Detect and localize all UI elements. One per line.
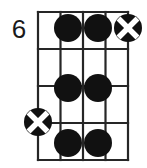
cross-marker-top-right (114, 14, 142, 42)
chord-grid-svg (0, 0, 147, 168)
dot-fret4-string3 (84, 129, 112, 157)
dot-fret1-string2 (54, 14, 82, 42)
dot-fret1-string3 (84, 14, 112, 42)
dot-fret4-string2 (54, 129, 82, 157)
dot-fret3-string2 (54, 74, 82, 102)
cross-marker-left (24, 108, 52, 136)
dot-fret3-string3 (84, 74, 112, 102)
